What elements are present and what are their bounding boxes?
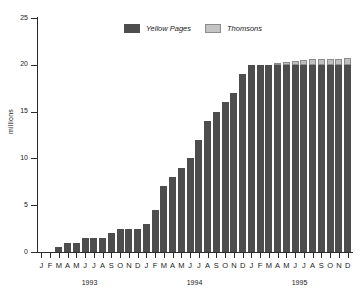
x-axis-tick: [295, 253, 296, 258]
bar-group: [222, 102, 229, 252]
x-axis-tick: [269, 253, 270, 258]
y-axis-tick-label: 15: [0, 107, 28, 114]
x-axis-tick: [41, 253, 42, 258]
bar-segment-yellow-pages: [152, 210, 159, 252]
bar-group: [108, 233, 115, 252]
bar-group: [265, 65, 272, 252]
y-axis-tick-label: 0: [0, 248, 28, 255]
x-axis-tick: [50, 253, 51, 258]
y-axis-tick-label: 5: [0, 201, 28, 208]
bar-group: [73, 243, 80, 252]
bar-group: [169, 177, 176, 252]
legend-label-yellow-pages: Yellow Pages: [146, 24, 191, 33]
x-axis-tick: [339, 253, 340, 258]
bar-group: [195, 140, 202, 252]
bar-group: [344, 58, 351, 252]
bar-segment-yellow-pages: [195, 140, 202, 252]
x-axis-group-label: 1993: [60, 279, 120, 286]
x-axis-tick: [348, 253, 349, 258]
x-axis-tick: [120, 253, 121, 258]
y-axis-title: millions: [7, 92, 14, 152]
x-axis-group-label: 1995: [270, 279, 330, 286]
x-axis-tick: [155, 253, 156, 258]
bar-group: [82, 238, 89, 252]
chart-legend: Yellow Pages Thomsons: [124, 24, 262, 33]
x-axis-tick: [138, 253, 139, 258]
bar-segment-yellow-pages: [335, 65, 342, 252]
bar-segment-yellow-pages: [117, 229, 124, 252]
x-axis-tick: [190, 253, 191, 258]
bar-segment-yellow-pages: [90, 238, 97, 252]
x-axis-tick: [146, 253, 147, 258]
x-axis-tick: [251, 253, 252, 258]
bar-segment-yellow-pages: [248, 65, 255, 252]
bar-group: [257, 65, 264, 252]
x-axis-tick: [260, 253, 261, 258]
bar-group: [292, 61, 299, 252]
bar-segment-yellow-pages: [73, 243, 80, 252]
x-axis-group-label: 1994: [165, 279, 225, 286]
x-axis-tick: [111, 253, 112, 258]
bar-group: [143, 224, 150, 252]
x-axis-tick: [225, 253, 226, 258]
bar-segment-yellow-pages: [257, 65, 264, 252]
x-axis-tick: [208, 253, 209, 258]
x-axis-tick: [103, 253, 104, 258]
bar-segment-yellow-pages: [265, 65, 272, 252]
bar-group: [213, 112, 220, 252]
bar-segment-yellow-pages: [169, 177, 176, 252]
bar-segment-yellow-pages: [143, 224, 150, 252]
bar-group: [178, 168, 185, 252]
bar-segment-yellow-pages: [239, 74, 246, 252]
bar-segment-yellow-pages: [274, 65, 281, 252]
x-axis-tick: [304, 253, 305, 258]
legend-entry-thomsons: Thomsons: [205, 24, 262, 33]
x-axis-tick: [181, 253, 182, 258]
bar-segment-yellow-pages: [300, 65, 307, 252]
bar-segment-yellow-pages: [283, 65, 290, 252]
bar-segment-yellow-pages: [187, 158, 194, 252]
bar-segment-yellow-pages: [108, 233, 115, 252]
bar-group: [248, 65, 255, 252]
x-axis-tick: [59, 253, 60, 258]
bar-group: [318, 59, 325, 252]
bar-segment-yellow-pages: [64, 243, 71, 252]
bar-group: [327, 59, 334, 252]
bar-group: [187, 158, 194, 252]
bar-group: [99, 238, 106, 252]
bar-group: [134, 229, 141, 252]
bar-segment-yellow-pages: [309, 65, 316, 252]
bar-segment-yellow-pages: [213, 112, 220, 252]
bar-segment-yellow-pages: [344, 65, 351, 252]
bar-group: [55, 247, 62, 252]
x-axis-tick: [129, 253, 130, 258]
y-axis-tick: [31, 252, 37, 253]
x-axis-tick: [94, 253, 95, 258]
plot-area: [37, 18, 352, 252]
x-axis-tick: [243, 253, 244, 258]
x-axis-tick: [286, 253, 287, 258]
bar-segment-yellow-pages: [160, 186, 167, 252]
bar-group: [64, 243, 71, 252]
bar-group: [90, 238, 97, 252]
x-axis-tick: [164, 253, 165, 258]
x-axis-tick: [199, 253, 200, 258]
bar-group: [309, 59, 316, 252]
bar-group: [117, 229, 124, 252]
bar-segment-yellow-pages: [55, 247, 62, 252]
x-axis-tick: [85, 253, 86, 258]
bar-group: [335, 59, 342, 252]
x-axis-tick: [76, 253, 77, 258]
bar-chart: millions 0510152025 JFMAMJJASONDJFMAMJJA…: [0, 0, 363, 297]
bar-segment-yellow-pages: [230, 93, 237, 252]
bar-segment-yellow-pages: [222, 102, 229, 252]
bar-segment-yellow-pages: [99, 238, 106, 252]
x-axis-tick: [68, 253, 69, 258]
bar-segment-yellow-pages: [82, 238, 89, 252]
y-axis-tick-label: 10: [0, 154, 28, 161]
y-axis-tick-label: 20: [0, 60, 28, 67]
bar-group: [239, 74, 246, 252]
y-axis-tick-label: 25: [0, 14, 28, 21]
x-axis-tick: [173, 253, 174, 258]
x-axis-tick: [330, 253, 331, 258]
